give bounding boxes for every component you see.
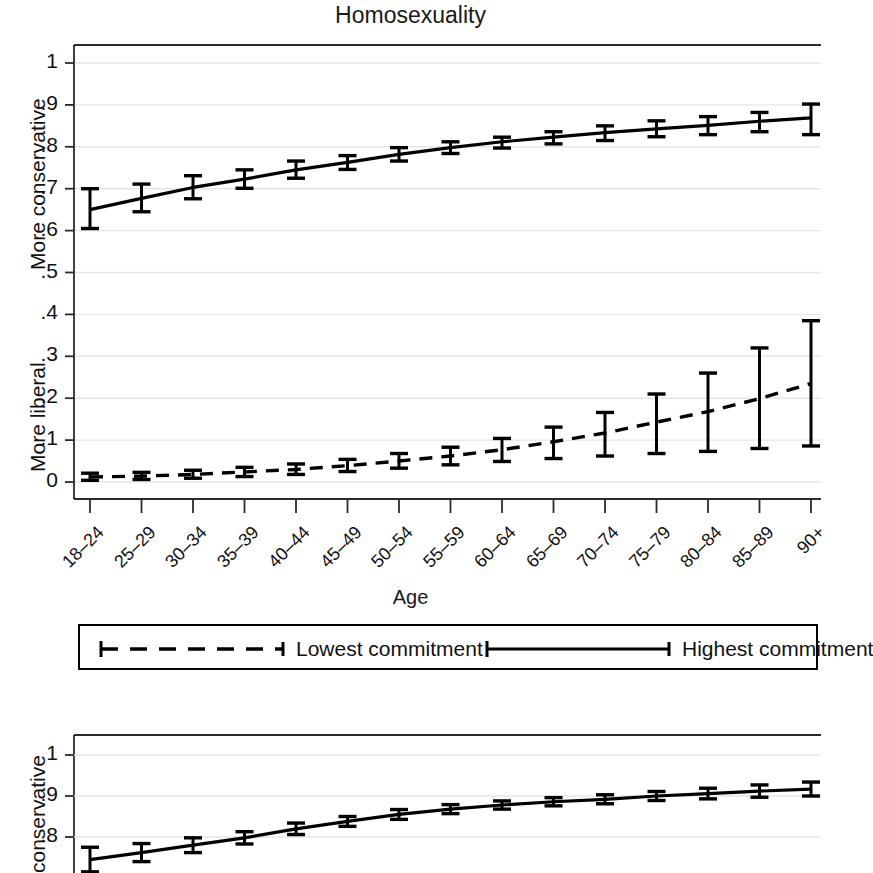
y-tick-label: .1 bbox=[18, 426, 58, 450]
legend-item-lowest-commitment: Lowest commitment bbox=[98, 626, 483, 672]
y-tick-label: .9 bbox=[18, 782, 58, 806]
y-tick-label: .7 bbox=[18, 175, 58, 199]
y-tick-label: 1 bbox=[18, 741, 58, 765]
y-tick-label: .5 bbox=[18, 259, 58, 283]
y-tick-label: 0 bbox=[18, 468, 58, 492]
legend-label-highest-commitment: Highest commitment bbox=[682, 637, 873, 661]
plot-area-gay-marriage bbox=[0, 733, 821, 873]
plot-area-homosexuality bbox=[0, 0, 821, 620]
legend: Lowest commitment Highest commitment bbox=[78, 624, 818, 670]
legend-item-highest-commitment: Highest commitment bbox=[484, 626, 873, 672]
y-tick-label: .2 bbox=[18, 384, 58, 408]
y-tick-label: .6 bbox=[18, 217, 58, 241]
y-tick-label: .9 bbox=[18, 91, 58, 115]
legend-swatch-solid-icon bbox=[484, 637, 672, 661]
y-tick-label: .8 bbox=[18, 823, 58, 847]
legend-label-lowest-commitment: Lowest commitment bbox=[296, 637, 483, 661]
y-tick-label: .8 bbox=[18, 133, 58, 157]
y-tick-label: 1 bbox=[18, 49, 58, 73]
y-tick-label: .4 bbox=[18, 300, 58, 324]
y-tick-label: .3 bbox=[18, 342, 58, 366]
legend-swatch-dashed-icon bbox=[98, 637, 286, 661]
